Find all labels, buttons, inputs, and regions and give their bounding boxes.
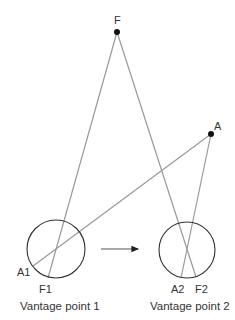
ray-a-to-a1	[33, 134, 211, 266]
label-f1: F1	[39, 283, 52, 295]
label-f: F	[114, 14, 121, 26]
point-f-dot	[114, 29, 120, 35]
label-a2: A2	[171, 283, 184, 295]
caption-vantage-point-1: Vantage point 1	[20, 300, 100, 312]
parallax-diagram: F A A1 F1 A2 F2 Vantage point 1 Vantage …	[0, 0, 235, 320]
label-a1: A1	[17, 266, 30, 278]
label-f2: F2	[195, 283, 208, 295]
ray-f-to-f1	[48, 32, 117, 278]
caption-vantage-point-2: Vantage point 2	[150, 300, 230, 312]
label-a: A	[214, 120, 222, 132]
ray-a-to-a2	[181, 134, 211, 278]
